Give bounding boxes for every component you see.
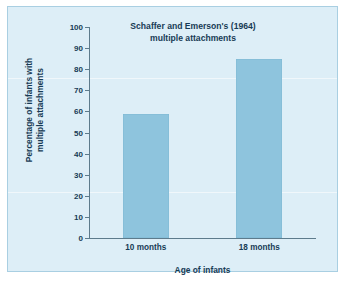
y-axis-tick-mark (85, 90, 89, 91)
y-axis-tick-mark (85, 238, 89, 239)
x-axis-title: Age of infants (89, 265, 316, 275)
x-axis-tick-label: 18 months (239, 243, 280, 252)
y-axis-tick-label: 40 (74, 149, 83, 158)
y-axis-title-line-1: Percentage of infants with (24, 30, 35, 190)
y-axis-tick-mark (85, 196, 89, 197)
x-axis-tick-label: 10 months (125, 243, 166, 252)
y-axis-tick-mark (85, 111, 89, 112)
y-axis-tick-label: 60 (74, 107, 83, 116)
y-axis-tick-label: 90 (74, 44, 83, 53)
plot-area: 0102030405060708090100 10 months18 month… (89, 27, 316, 239)
y-axis-line (89, 27, 90, 239)
y-axis-tick-mark (85, 217, 89, 218)
bar (236, 59, 282, 238)
y-axis-tick-label: 30 (74, 170, 83, 179)
y-axis-tick-mark (85, 175, 89, 176)
chart-figure: Schaffer and Emerson's (1964) multiple a… (7, 6, 338, 272)
y-axis-tick-mark (85, 154, 89, 155)
y-axis-tick-label: 70 (74, 86, 83, 95)
y-axis-title-line-2: multiple attachments (35, 30, 46, 190)
y-axis-tick-label: 50 (74, 128, 83, 137)
y-axis-tick-label: 80 (74, 65, 83, 74)
y-axis-tick-label: 100 (70, 23, 83, 32)
y-axis-tick-label: 0 (79, 234, 83, 243)
y-axis-tick-label: 10 (74, 212, 83, 221)
y-axis-title: Percentage of infants with multiple atta… (24, 30, 46, 190)
bar (123, 114, 169, 238)
y-axis-tick-mark (85, 27, 89, 28)
y-axis-tick-label: 20 (74, 191, 83, 200)
y-axis-tick-mark (85, 48, 89, 49)
x-axis-line (89, 238, 316, 239)
y-axis-tick-mark (85, 133, 89, 134)
y-axis-tick-mark (85, 69, 89, 70)
